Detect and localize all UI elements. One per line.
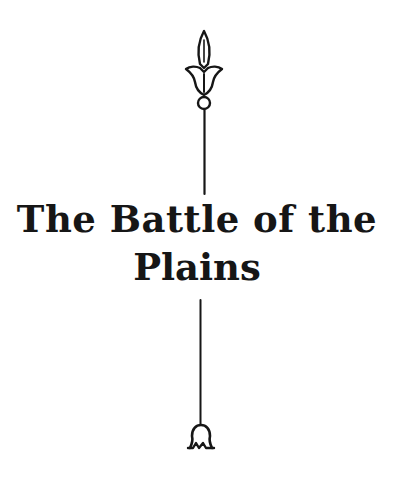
- page-title-line-1: The Battle of the: [0, 195, 394, 243]
- top-ornament: [0, 0, 394, 200]
- page-title-line-2: Plains: [0, 243, 394, 291]
- bell-drop-icon: [188, 300, 214, 448]
- lily-finial-icon: [186, 31, 222, 194]
